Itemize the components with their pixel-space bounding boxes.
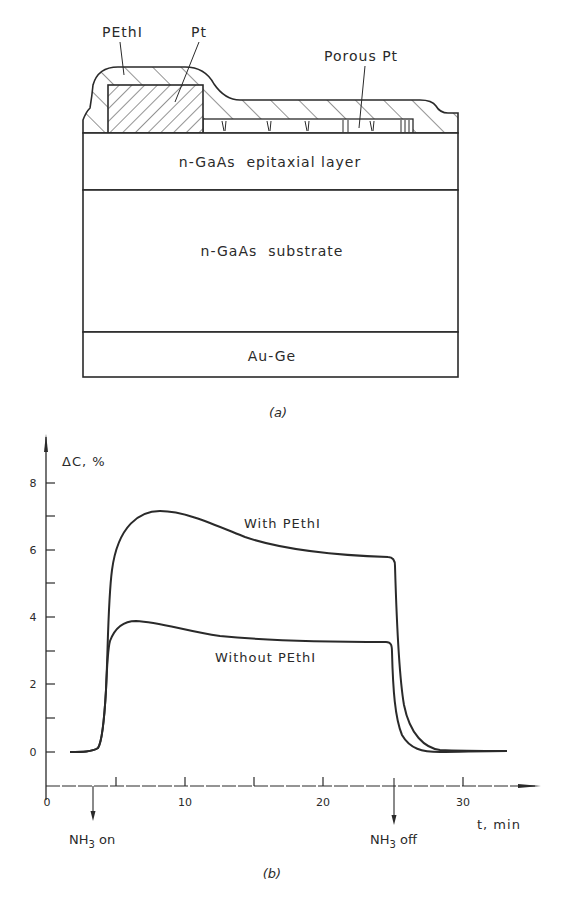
y-ticks <box>46 483 55 752</box>
figure-canvas: n-GaAs epitaxial layer n-GaAs substrate … <box>0 0 564 903</box>
y-tick-labels: 0 2 4 6 8 <box>30 477 37 759</box>
svg-text:6: 6 <box>30 544 37 557</box>
x-axis-label: t, min <box>477 817 521 832</box>
pethi-label: PEthI <box>102 24 143 40</box>
svg-text:4: 4 <box>30 611 37 624</box>
label-without-pethi: Without PEthI <box>215 650 316 665</box>
label-with-pethi: With PEthI <box>244 516 321 531</box>
pt-label: Pt <box>191 24 207 40</box>
nh3-on-arrowhead-icon <box>91 811 96 821</box>
svg-text:0: 0 <box>44 796 51 809</box>
substrate-layer <box>83 190 458 332</box>
caption-a: (a) <box>269 405 287 420</box>
y-axis-label: ΔC, % <box>62 454 106 469</box>
series-with-pethi <box>70 511 507 752</box>
svg-text:10: 10 <box>178 796 192 809</box>
nh3-on-label: NH3 on <box>69 832 115 850</box>
device-cross-section: n-GaAs epitaxial layer n-GaAs substrate … <box>83 24 458 420</box>
nh3-off-arrowhead-icon <box>392 815 397 825</box>
response-chart: 0 2 4 6 8 0 10 20 30 ΔC, % t, min With P… <box>30 434 542 881</box>
svg-text:2: 2 <box>30 678 37 691</box>
svg-text:20: 20 <box>316 796 330 809</box>
x-tick-labels: 0 10 20 30 <box>44 796 471 809</box>
svg-text:30: 30 <box>456 796 470 809</box>
x-axis-arrow-icon <box>518 784 541 788</box>
y-axis-arrow-icon <box>44 434 48 452</box>
series-without-pethi <box>70 621 507 752</box>
nh3-off-label: NH3 off <box>370 832 418 850</box>
porous-pt-label: Porous Pt <box>324 48 398 64</box>
substrate-label: n-GaAs substrate <box>201 243 344 259</box>
x-ticks <box>116 777 463 786</box>
svg-text:0: 0 <box>30 746 37 759</box>
svg-text:8: 8 <box>30 477 37 490</box>
caption-b: (b) <box>263 866 281 881</box>
epitaxial-label: n-GaAs epitaxial layer <box>179 154 361 170</box>
au-ge-label: Au-Ge <box>248 348 296 364</box>
